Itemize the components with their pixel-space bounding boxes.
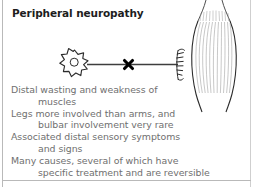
list-item-line: Distal wasting and weakness of (11, 84, 157, 95)
nerve-terminal-icon (176, 49, 184, 80)
muscle-fibres-icon (196, 22, 232, 93)
list-item-continuation: specific treatment and are reversible (20, 167, 235, 179)
muscle-fibres-top-icon (200, 11, 229, 22)
panel-border-left (2, 0, 3, 187)
list-item-line: Associated distal sensory symptoms (11, 131, 180, 142)
page-title: Peripheral neuropathy (12, 7, 144, 19)
list-item-continuation: bulbar involvement very rare (20, 119, 235, 131)
list-item-continuation: and signs (20, 143, 235, 155)
list-item: Legs more involved than arms, andbulbar … (11, 108, 235, 131)
list-item-line: Legs more involved than arms, and (11, 108, 175, 119)
panel-border-bottom (2, 180, 251, 181)
list-item: Distal wasting and weakness ofmuscles (11, 84, 235, 107)
panel-border-right (250, 0, 251, 187)
clinical-features-list: Distal wasting and weakness ofmuscles Le… (11, 84, 235, 179)
lesion-marker-icon (125, 61, 133, 69)
list-item-continuation: muscles (20, 96, 235, 108)
list-item: Many causes, several of which havespecif… (11, 155, 235, 178)
list-item-line: Many causes, several of which have (11, 155, 178, 166)
neuron-cell-body-icon (60, 49, 88, 77)
figure-panel: Peripheral neuropathy (0, 0, 260, 187)
tendon-upper-icon (198, 0, 230, 21)
neuron-nucleus-icon (70, 58, 78, 66)
list-item: Associated distal sensory symptomsand si… (11, 131, 235, 154)
